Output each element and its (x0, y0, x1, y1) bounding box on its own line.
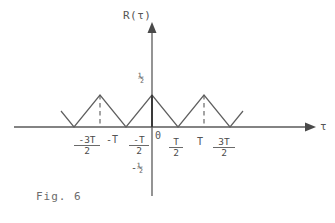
y-axis-arrow-icon (148, 22, 157, 33)
figure-caption: Fig. 6 (36, 191, 82, 202)
x-tick-half-T: T 2 (169, 137, 183, 158)
x-tick-three-half-T-denominator: 2 (213, 148, 235, 158)
figure-canvas: R(τ) τ ½ -½ 0 -3T 2 -T -T 2 T 2 T 3T 2 F… (0, 0, 335, 223)
x-axis-label: τ (320, 121, 327, 132)
x-tick-T: T (197, 137, 203, 147)
y-axis-label: R(τ) (123, 10, 152, 21)
y-tick-label-half: ½ (138, 73, 144, 83)
x-tick-three-half-T: 3T 2 (213, 137, 235, 158)
origin-label: 0 (155, 131, 161, 141)
x-tick-minus-three-half-T-denominator: 2 (74, 146, 100, 156)
x-tick-minus-half-T: -T 2 (129, 135, 149, 156)
x-tick-minus-three-half-T: -3T 2 (74, 135, 100, 156)
x-tick-half-T-denominator: 2 (169, 148, 183, 158)
x-tick-minus-T: -T (106, 135, 118, 145)
y-tick-label-minus-half: -½ (131, 163, 143, 173)
x-tick-minus-half-T-denominator: 2 (129, 146, 149, 156)
x-axis-arrow-icon (305, 123, 316, 132)
